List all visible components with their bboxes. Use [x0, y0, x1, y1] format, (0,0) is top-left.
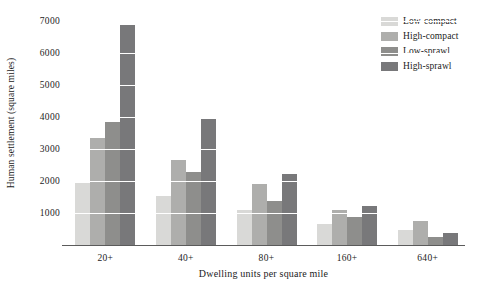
y-tick-label: 7000 — [20, 16, 60, 26]
bar — [282, 174, 297, 245]
plot-area — [62, 14, 465, 245]
y-tick-label: 2000 — [20, 176, 60, 186]
bar-group — [317, 14, 377, 245]
bar — [120, 25, 135, 245]
bar-group — [398, 14, 458, 245]
bar — [317, 224, 332, 245]
y-tick-label: 4000 — [20, 112, 60, 122]
y-tick-label: 1000 — [20, 208, 60, 218]
legend-swatch — [381, 47, 398, 56]
bar-group — [75, 14, 135, 245]
bar — [252, 184, 267, 245]
bar — [428, 237, 443, 245]
gridline — [62, 21, 465, 22]
gridline — [62, 181, 465, 182]
bar — [90, 138, 105, 245]
bar — [332, 210, 347, 245]
bar-group — [237, 14, 297, 245]
bar — [267, 201, 282, 245]
legend-swatch — [381, 32, 398, 41]
y-axis-title-text: Human settlement (square miles) — [6, 57, 16, 188]
bar — [398, 230, 413, 245]
legend-swatch — [381, 62, 398, 71]
bar-group — [156, 14, 216, 245]
gridline — [62, 149, 465, 150]
bar — [105, 122, 120, 245]
bar — [347, 217, 362, 245]
y-tick-label: 5000 — [20, 80, 60, 90]
gridline — [62, 85, 465, 86]
bar — [186, 172, 201, 245]
gridline — [62, 213, 465, 214]
bar — [443, 233, 458, 245]
bar — [171, 160, 186, 245]
y-axis-ticks: 1000200030004000500060007000 — [16, 0, 60, 294]
x-tick-label: 80+ — [237, 253, 297, 263]
x-axis-title: Dwelling units per square mile — [62, 268, 465, 279]
x-tick-label: 640+ — [398, 253, 458, 263]
gridline — [62, 117, 465, 118]
bar — [237, 210, 252, 245]
y-tick-label: 6000 — [20, 48, 60, 58]
x-tick-label: 160+ — [317, 253, 377, 263]
x-tick-label: 40+ — [156, 253, 216, 263]
bar — [413, 221, 428, 245]
x-axis-line — [62, 245, 465, 246]
bar — [156, 196, 171, 245]
x-tick-label: 20+ — [75, 253, 135, 263]
chart-figure: Human settlement (square miles) 10002000… — [0, 0, 481, 294]
y-tick-label: 3000 — [20, 144, 60, 154]
bar — [201, 119, 216, 245]
gridline — [62, 53, 465, 54]
bar — [362, 206, 377, 245]
